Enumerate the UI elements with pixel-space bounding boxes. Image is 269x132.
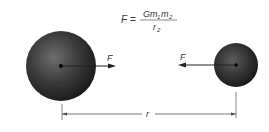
arrowhead-left-icon (178, 63, 186, 68)
distance-label: r (146, 109, 150, 119)
formula-denominator-sub: 2 (156, 27, 161, 33)
formula: F = Gm 1 m 2 r 2 (121, 9, 177, 33)
force-label-m2: F (180, 52, 186, 62)
formula-equals: = (130, 14, 136, 25)
formula-sub2: 2 (168, 14, 173, 20)
dimension-arrow-left-icon (62, 113, 67, 116)
dimension-arrow-right-icon (231, 113, 236, 116)
formula-lhs: F (121, 14, 128, 25)
mass-label-m1: m (54, 79, 62, 89)
mass-label-m2: m (229, 72, 237, 82)
mass-sub-m2: 2 (237, 77, 242, 83)
arrowhead-right-icon (108, 64, 116, 69)
gravitation-diagram: F = Gm 1 m 2 r 2 F m 1 F m 2 r (0, 0, 269, 132)
distance-dimension: r (62, 92, 236, 120)
mass-1: F m 1 (26, 31, 116, 101)
force-label-m1: F (107, 53, 113, 63)
mass-sub-m1: 1 (63, 85, 66, 91)
formula-sub1: 1 (157, 14, 160, 20)
mass-2: F m 2 (178, 43, 258, 87)
formula-numerator-m: m (161, 9, 169, 19)
formula-numerator-g: Gm (143, 9, 158, 19)
